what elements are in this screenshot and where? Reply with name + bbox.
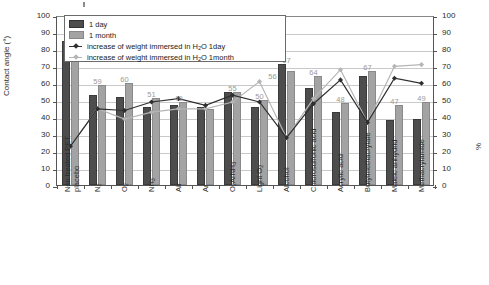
y-tick-label-right: 60 [442,80,464,88]
line-weight-1day-marker [203,103,208,108]
y-tick-label-right: 40 [442,114,464,122]
x-category-label: Methacrylamide [417,139,426,192]
y-tick-label-right: 30 [442,131,464,139]
line-weight-1month-marker [419,62,424,67]
bar-value-label: 50 [249,92,271,101]
y-tick-label-left: 50 [28,97,50,105]
x-category-label: Air [174,183,183,192]
y-tick-label-right: 50 [442,97,464,105]
line-weight-1day-marker [230,93,235,98]
line-weight-1month-marker [392,64,397,69]
legend-item-1day: 1 day [69,19,281,29]
y-tick-label-left: 0 [28,182,50,190]
x-category-label: N2 [93,184,102,192]
legend-label-weight-1month: increase of weight immersed in H2O 1mont… [87,53,234,62]
legend-label-weight-1day: increase of weight immersed in H2O 1day [87,42,225,51]
y-tick-label-right: 10 [442,165,464,173]
y-tick-label-right: 80 [442,46,464,54]
x-category-label: placebo [72,166,81,192]
x-category-label: Light O2 [255,165,264,192]
y-tick-label-left: 40 [28,114,50,122]
y-tick-label-left: 100 [28,12,50,20]
legend-item-1month: 1 month [69,30,281,40]
x-category-label: Chlorosulfonic acid [309,129,318,192]
y-tick-label-left: 60 [28,80,50,88]
bar-value-label: 49 [168,94,190,103]
legend-item-weight-1month: increase of weight immersed in H2O 1mont… [69,52,281,62]
y-axis-right-title: % [474,143,483,150]
bar-value-label: 59 [87,77,109,86]
x-category-label: Acrylic acid [336,154,345,192]
bar-value-label: 49 [411,94,433,103]
y-tick-label-left: 10 [28,165,50,173]
y-axis-left-title: Contact angle (°) [2,36,11,96]
y-tick-label-right: 100 [442,12,464,20]
y-tick-label-right: 0 [442,182,464,190]
x-category-label: O2 [120,183,129,192]
x-category-label: Ar [201,185,210,193]
y-tick-label-left: 20 [28,148,50,156]
y-tick-label-left: 30 [28,131,50,139]
bar-value-label: 51 [141,90,163,99]
y-tick-label-right: 70 [442,63,464,71]
legend-bar-dark-swatch-icon [69,20,84,28]
bar-value-label: 60 [114,75,136,84]
bar-value-label: 47 [384,97,406,106]
bar-value-label: 48 [330,95,352,104]
image-artifact [83,2,85,7]
x-category-label: Non treated PET [63,136,72,192]
x-tickmark [435,185,436,189]
line-weight-1day-marker [149,99,154,104]
chart-legend: 1 day 1 month increase of weight immerse… [64,15,286,62]
legend-line-light-marker-icon [69,54,82,61]
legend-label-1month: 1 month [89,31,116,40]
legend-label-1day: 1 day [89,20,107,29]
x-category-label: Maleic anhydrid [390,139,399,192]
x-category-label: NH3 [147,178,156,192]
legend-line-dark-marker-icon [69,43,82,50]
bar-value-label: 64 [303,68,325,77]
bar-value-label: 55 [222,84,244,93]
line-weight-1month-marker [176,106,181,111]
x-category-label: Alcohol [282,167,291,192]
line-weight-1month-marker [122,116,127,121]
contact-angle-chart: Contact angle (°) % 10090807060504030201… [0,0,489,285]
legend-item-weight-1day: increase of weight immersed in H2O 1day [69,41,281,51]
bar-value-label: 67 [357,63,379,72]
y-tick-label-left: 90 [28,29,50,37]
line-value-label: 56 [262,72,284,81]
line-weight-1day-marker [419,81,424,86]
legend-bar-light-swatch-icon [69,31,84,39]
y-tick-label-right: 90 [442,29,464,37]
y-tick-label-left: 70 [28,63,50,71]
x-category-label: Butylmethacrylate [363,132,372,192]
x-category-label: O2ArNH3 [228,162,237,192]
y-tick-label-left: 80 [28,46,50,54]
y-tick-label-right: 20 [442,148,464,156]
line-weight-1day-marker [122,108,127,113]
line-weight-1month-marker [149,110,154,115]
